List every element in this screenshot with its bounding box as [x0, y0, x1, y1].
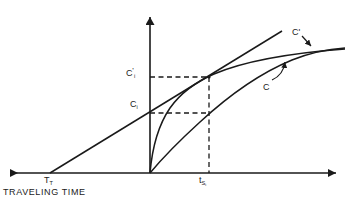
label-curve-c: C — [263, 83, 270, 92]
tangent-line — [50, 31, 282, 173]
curve-c — [150, 48, 345, 173]
curve-c-prime — [150, 49, 345, 173]
label-curve-c-prime: C' — [292, 28, 300, 37]
label-x-point: tSi — [199, 176, 206, 185]
label-y-lower: Ci — [130, 100, 138, 109]
label-x-intercept: TT — [44, 176, 53, 185]
annotation-arrow-c-prime — [302, 36, 311, 46]
axis-label-x: TRAVELING TIME — [3, 188, 86, 197]
tangency-point-marker — [207, 75, 210, 78]
label-y-upper: C'i — [126, 66, 135, 78]
cost-traveling-time-diagram: C'i Ci tSi TT C' C TRAVELING TIME — [0, 0, 351, 197]
